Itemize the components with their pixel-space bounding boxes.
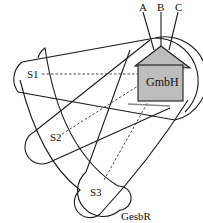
gmbh-house (135, 46, 190, 101)
label-s1: S1 (27, 68, 39, 80)
owner-lines (143, 12, 178, 50)
dashed-links (42, 74, 148, 180)
label-gesbr: GesbR (121, 210, 152, 222)
label-c: C (175, 1, 182, 13)
underline-mark (128, 104, 170, 106)
dash-s2-gmbh (62, 86, 138, 134)
label-b: B (157, 1, 164, 13)
diagram-canvas: A B C GmbH S1 S2 S3 GesbR (0, 0, 203, 223)
label-s3: S3 (90, 186, 102, 198)
label-gmbh: GmbH (146, 75, 179, 89)
label-a: A (139, 1, 147, 13)
loop-gesbr (78, 50, 132, 216)
diagram-svg: A B C GmbH S1 S2 S3 GesbR (0, 0, 203, 223)
label-s2: S2 (50, 131, 62, 143)
